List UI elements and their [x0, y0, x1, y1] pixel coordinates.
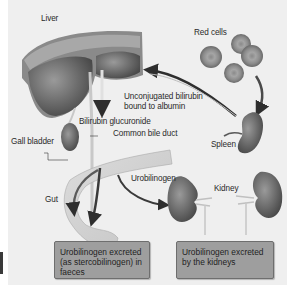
label-red-cells: Red cells: [194, 28, 227, 37]
label-common-bile-duct: Common bile duct: [113, 129, 177, 138]
label-unconjugated-line1: Unconjugated bilirubin: [124, 92, 203, 101]
label-bilirubin-glucuronide: Bilirubin glucuronide: [79, 117, 151, 126]
label-urobilinogen: Urobilinogen: [131, 174, 176, 183]
kidney-left-illustration: [168, 176, 212, 235]
label-liver: Liver: [41, 14, 58, 23]
kidney-excretion-box: Urobilinogen excreted by the kidneys: [176, 241, 274, 279]
label-gut: Gut: [45, 195, 58, 204]
red-cells-illustration: [200, 34, 263, 83]
label-spleen: Spleen: [211, 140, 236, 149]
gut-illustration: [64, 150, 172, 250]
kidney-right-illustration: [236, 172, 282, 235]
gall-bladder-illustration: [61, 123, 79, 151]
label-gall-bladder: Gall bladder: [11, 137, 54, 146]
label-kidney: Kidney: [214, 184, 238, 193]
label-unconjugated-line2: bound to albumin: [124, 102, 185, 111]
faeces-excretion-box: Urobilinogen excreted (as stercobilinoge…: [54, 241, 150, 279]
